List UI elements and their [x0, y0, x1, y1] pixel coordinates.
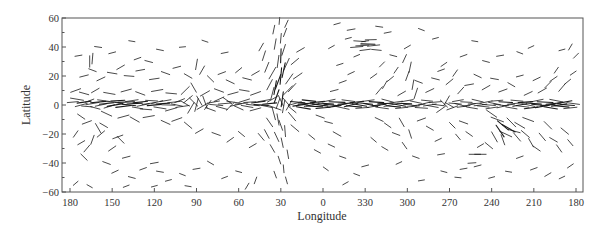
polarization-vector — [71, 98, 84, 100]
polarization-vector — [107, 104, 123, 107]
polarization-vector — [283, 165, 284, 173]
polarization-vector — [336, 107, 349, 110]
polarization-vector — [354, 41, 366, 42]
polarization-vector — [465, 84, 474, 86]
polarization-vector — [267, 118, 273, 127]
polarization-vector — [100, 123, 108, 127]
polarization-vector — [348, 72, 354, 75]
polarization-vector — [474, 74, 481, 77]
polarization-vector — [97, 77, 105, 81]
polarization-vector — [561, 105, 575, 106]
polarization-vector — [438, 69, 445, 71]
polarization-vector — [92, 88, 100, 92]
polarization-vector — [243, 78, 252, 80]
polarization-vector — [372, 49, 382, 50]
polarization-vector — [222, 176, 228, 178]
polarization-vector — [165, 180, 171, 182]
polarization-vector — [306, 106, 322, 107]
polarization-vector — [289, 112, 296, 120]
polarization-vector — [281, 49, 282, 63]
polarization-vector — [283, 86, 292, 95]
polarization-vector — [236, 171, 242, 173]
polarization-vector — [272, 108, 275, 120]
polarization-vector — [195, 99, 198, 112]
polarization-vector — [82, 121, 91, 124]
polarization-vector — [288, 84, 295, 92]
polarization-vector — [84, 145, 90, 152]
polarization-vector — [200, 91, 209, 96]
polarization-vector — [472, 99, 483, 102]
polarization-vector — [285, 20, 288, 27]
polarization-vector — [347, 29, 355, 30]
polarization-vector — [172, 118, 182, 122]
polarization-vector — [314, 150, 320, 153]
polarization-vector — [339, 81, 346, 84]
polarization-vector — [330, 90, 338, 92]
polarization-vector — [557, 145, 562, 152]
polarization-vector — [118, 115, 129, 118]
x-tick-label: 150 — [104, 197, 120, 208]
polarization-vector — [568, 140, 573, 146]
polarization-vector — [104, 92, 115, 94]
polarization-vector — [81, 154, 87, 160]
polarization-vector — [499, 102, 513, 103]
polarization-vector — [333, 132, 341, 136]
polarization-vector — [267, 80, 272, 90]
polarization-vector — [252, 71, 260, 75]
polarization-vector — [67, 102, 78, 103]
polarization-vector — [279, 120, 283, 130]
polarization-vector — [350, 101, 364, 102]
polarization-vector — [472, 41, 478, 42]
polarization-vector — [415, 108, 427, 109]
polarization-vector — [145, 61, 153, 63]
polarization-vector — [427, 105, 438, 107]
polarization-vector — [376, 107, 389, 109]
polarization-vector — [398, 103, 412, 104]
polarization-vector — [516, 106, 529, 108]
polarization-vector — [485, 143, 493, 149]
polarization-vector — [173, 66, 181, 68]
polarization-vector — [453, 100, 464, 102]
polarization-vector — [356, 45, 369, 46]
polarization-vector — [371, 138, 376, 143]
polarization-vector — [179, 47, 185, 48]
polarization-vector — [236, 68, 242, 73]
polarization-vector — [116, 106, 131, 108]
polarization-vector — [280, 34, 281, 44]
polarization-vector — [316, 115, 324, 118]
polarization-vector — [109, 52, 116, 54]
polarization-vector — [382, 99, 394, 102]
polarization-vector — [208, 161, 214, 165]
polarization-vector — [287, 150, 289, 159]
polarization-vector — [413, 156, 420, 158]
polarization-vector — [212, 133, 220, 136]
polarization-vector — [97, 131, 104, 137]
polarization-vector — [508, 130, 520, 133]
polarization-vector — [458, 87, 464, 94]
polarization-vector — [418, 180, 424, 181]
polarization-vector — [73, 131, 78, 137]
polarization-vector — [460, 168, 467, 169]
y-axis-title: Latitude — [19, 85, 33, 125]
polarization-vector — [432, 78, 440, 80]
polarization-vector — [117, 136, 124, 143]
polarization-vector — [218, 103, 231, 104]
polarization-vector — [370, 74, 376, 79]
polarization-vector — [438, 154, 445, 155]
polarization-vector — [281, 138, 283, 147]
polarization-vector — [450, 123, 456, 129]
polarization-vector — [78, 141, 85, 145]
polarization-vector — [87, 185, 92, 188]
polarization-vector — [218, 72, 225, 75]
polarization-vector — [554, 67, 558, 73]
polarization-vector — [99, 103, 114, 105]
polarization-vector — [459, 121, 467, 124]
polarization-vector — [396, 107, 408, 108]
polarization-vector — [80, 75, 89, 77]
polarization-vector — [117, 65, 125, 69]
polarization-vector — [528, 46, 534, 49]
polarization-vector — [409, 62, 411, 72]
polarization-vector — [234, 106, 243, 110]
polarization-vector — [297, 48, 305, 52]
polarization-vector — [78, 114, 85, 119]
